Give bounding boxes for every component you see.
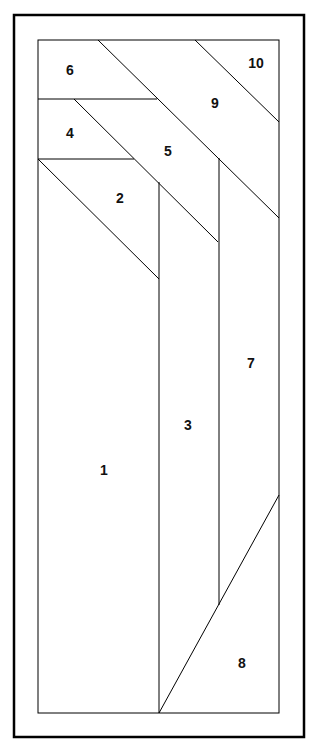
piece-label-8: 8 bbox=[238, 655, 246, 671]
piece-label-4: 4 bbox=[66, 125, 74, 141]
seam-lines bbox=[38, 40, 279, 713]
piece-label-3: 3 bbox=[184, 417, 192, 433]
piece-label-9: 9 bbox=[211, 95, 219, 111]
piece-label-2: 2 bbox=[116, 190, 124, 206]
piece-label-10: 10 bbox=[248, 55, 264, 71]
pattern-drawing bbox=[0, 0, 319, 748]
piece-label-1: 1 bbox=[100, 462, 108, 478]
piece-label-7: 7 bbox=[247, 355, 255, 371]
piece-label-6: 6 bbox=[66, 62, 74, 78]
piece-label-5: 5 bbox=[164, 143, 172, 159]
